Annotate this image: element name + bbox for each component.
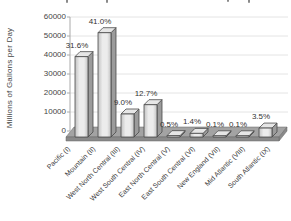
- y-tick-label: 40000: [44, 50, 66, 59]
- bar-data-label: 12.7%: [131, 89, 161, 98]
- bar-4: [157, 100, 162, 137]
- y-tick-label: 60000: [44, 12, 66, 21]
- y-tick-label: 20000: [44, 88, 66, 97]
- bar-2: [98, 33, 111, 137]
- bar-5: [167, 136, 180, 137]
- bar-7: [213, 136, 226, 137]
- y-tick-label: 10000: [44, 107, 66, 116]
- bar-data-label: 31.6%: [62, 41, 92, 50]
- bar-9: [259, 128, 272, 137]
- bar-chart: Millions of Gallons per Day 010000200003…: [0, 0, 291, 221]
- bar-3: [121, 114, 134, 137]
- y-tick-label: 50000: [44, 31, 66, 40]
- bar-data-label: 3.5%: [246, 112, 276, 121]
- bar-1: [88, 52, 93, 137]
- y-tick-label: 30000: [44, 69, 66, 78]
- chart-floor-front: [66, 137, 279, 141]
- bar-data-label: 0.1%: [223, 120, 253, 129]
- y-tick-label: 0: [62, 126, 66, 135]
- bar-1: [75, 57, 88, 137]
- bar-2: [111, 28, 116, 137]
- bar-data-label: 41.0%: [85, 17, 115, 26]
- bar-8: [236, 136, 249, 137]
- bar-6: [190, 133, 203, 137]
- bar-data-label: 9.0%: [108, 98, 138, 107]
